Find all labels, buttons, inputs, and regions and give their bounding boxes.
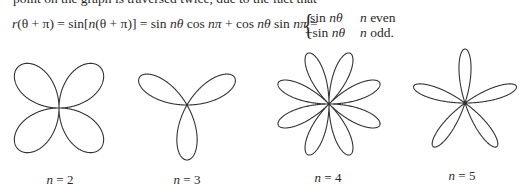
rose-curve-n2 <box>14 63 103 152</box>
caption-n5: n = 5 <box>449 168 476 184</box>
rose-curves-figure <box>0 0 526 196</box>
rose-curve-n3 <box>139 74 236 160</box>
rose-curve-n4 <box>278 53 380 155</box>
caption-n3: n = 3 <box>174 172 201 188</box>
rose-curve-n5 <box>414 49 517 147</box>
caption-n4: n = 4 <box>315 170 342 186</box>
caption-n2: n = 2 <box>47 172 74 188</box>
